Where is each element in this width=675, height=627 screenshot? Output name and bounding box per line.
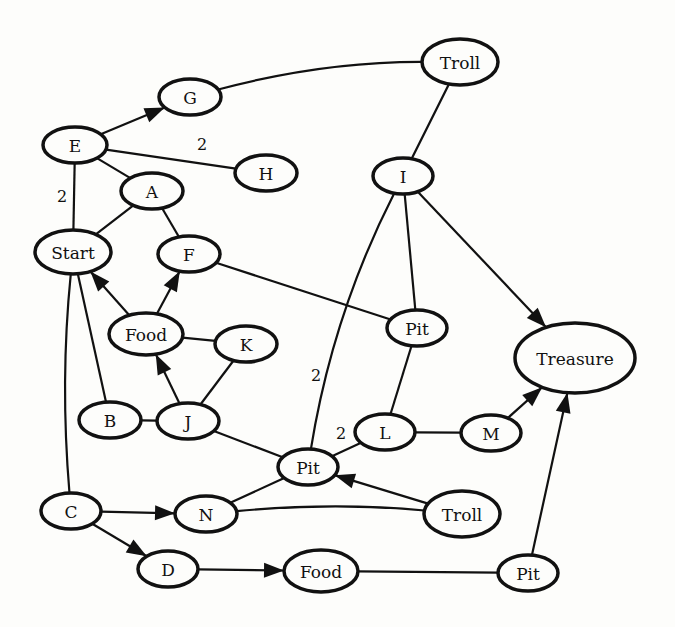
node-pit1: Pit xyxy=(387,310,447,346)
node-g: G xyxy=(159,79,221,115)
node-label: F xyxy=(183,245,195,265)
node-start: Start xyxy=(35,230,111,274)
nodes-layer: EGHAStartFFoodKBJTrollIPitTreasureLMPitC… xyxy=(35,39,635,592)
node-label: Troll xyxy=(442,505,483,525)
node-troll2: Troll xyxy=(424,491,500,537)
node-label: B xyxy=(104,411,117,431)
node-label: Start xyxy=(51,243,95,263)
node-h: H xyxy=(235,155,297,191)
edge-a-start xyxy=(96,205,134,234)
node-pit3: Pit xyxy=(498,555,558,591)
node-label: Pit xyxy=(296,458,320,478)
edge-e-h xyxy=(106,150,236,169)
edge-e-a xyxy=(97,158,130,178)
node-label: Troll xyxy=(440,53,481,73)
arrowhead-icon xyxy=(335,474,356,488)
edge-food2-pit3 xyxy=(358,571,498,572)
edge-j-pit2 xyxy=(214,431,283,457)
node-b: B xyxy=(79,402,141,438)
edge-g-troll1 xyxy=(218,62,422,90)
node-label: Food xyxy=(125,325,167,345)
node-label: E xyxy=(69,136,81,156)
node-label: C xyxy=(64,502,77,522)
node-d: D xyxy=(138,551,198,587)
edge-i-pit2 xyxy=(311,193,394,449)
node-label: J xyxy=(183,412,192,432)
node-c: C xyxy=(41,493,101,529)
node-f: F xyxy=(158,236,220,272)
node-label: Pit xyxy=(516,564,540,584)
edge-n-pit2 xyxy=(230,478,284,503)
arrowhead-icon xyxy=(264,563,284,578)
edge-n-troll2 xyxy=(237,506,425,511)
node-label: Pit xyxy=(405,319,429,339)
arrowhead-icon xyxy=(143,108,164,123)
node-label: K xyxy=(240,335,253,355)
edge-pit1-l xyxy=(390,346,411,415)
edge-troll1-i xyxy=(412,84,449,159)
arrowhead-icon xyxy=(155,505,175,520)
edge-pit3-treasure xyxy=(532,393,568,555)
node-label: N xyxy=(199,505,214,525)
edge-weight-label: 2 xyxy=(57,187,67,206)
arrowhead-icon xyxy=(556,393,571,414)
node-m: M xyxy=(461,415,521,451)
edge-j-k xyxy=(200,360,233,404)
node-label: H xyxy=(259,164,274,184)
node-label: M xyxy=(482,424,499,444)
node-label: Treasure xyxy=(536,349,614,369)
edge-start-b xyxy=(78,274,106,402)
arrowhead-icon xyxy=(156,354,171,375)
node-treasure: Treasure xyxy=(515,323,635,393)
node-label: Food xyxy=(300,562,342,582)
edge-a-f xyxy=(162,208,179,237)
node-k: K xyxy=(215,326,277,362)
graph-diagram: 2222 EGHAStartFFoodKBJTrollIPitTreasureL… xyxy=(0,0,675,627)
edge-i-pit1 xyxy=(405,194,416,310)
node-j: J xyxy=(157,403,219,439)
node-label: A xyxy=(145,182,159,202)
edge-i-treasure xyxy=(418,192,546,328)
edge-weight-label: 2 xyxy=(311,366,321,385)
node-label: L xyxy=(379,423,390,443)
edge-f-pit1 xyxy=(216,263,391,320)
node-n: N xyxy=(175,496,237,532)
node-l: L xyxy=(355,414,415,450)
edge-weight-label: 2 xyxy=(336,424,346,443)
node-food2: Food xyxy=(284,550,358,592)
edge-start-c xyxy=(65,274,71,493)
node-e: E xyxy=(43,127,107,163)
edge-e-start xyxy=(73,163,74,230)
edge-weight-label: 2 xyxy=(197,135,207,154)
node-label: D xyxy=(161,560,175,580)
arrowhead-icon xyxy=(126,540,147,557)
node-i: I xyxy=(373,158,433,194)
node-food1: Food xyxy=(109,313,183,355)
node-a: A xyxy=(121,173,183,209)
node-pit2: Pit xyxy=(278,449,338,485)
arrowhead-icon xyxy=(164,271,180,292)
edge-food1-k xyxy=(182,338,215,341)
node-troll1: Troll xyxy=(422,39,498,85)
node-label: I xyxy=(400,167,407,187)
edge-l-pit2 xyxy=(332,443,361,456)
node-label: G xyxy=(183,88,197,108)
